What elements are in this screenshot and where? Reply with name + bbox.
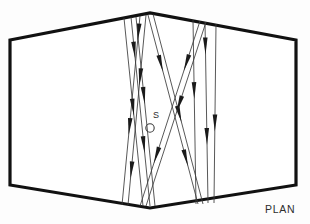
sound-source-label: S xyxy=(153,110,159,120)
plan-figure: S PLAN xyxy=(0,0,310,224)
plan-caption: PLAN xyxy=(265,203,295,215)
plan-diagram-canvas: S xyxy=(0,0,310,224)
